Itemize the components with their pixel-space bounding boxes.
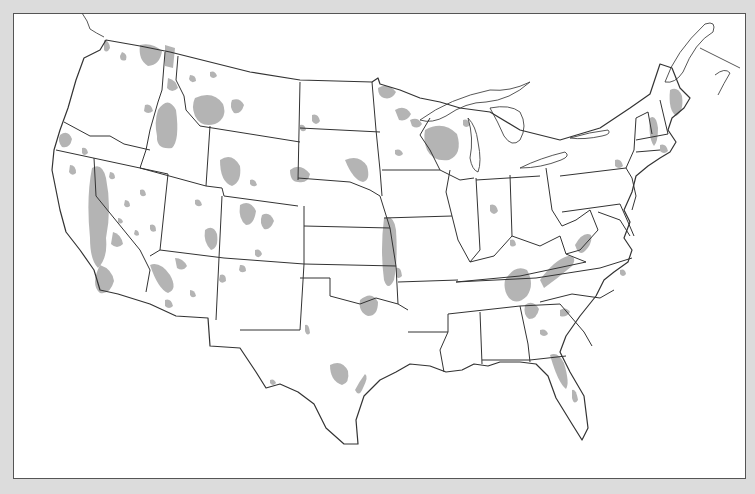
state-boundaries (56, 52, 668, 372)
shaded-regions (59, 40, 683, 403)
canada-outline (82, 13, 740, 172)
us-map (0, 0, 755, 494)
us-border (52, 40, 690, 444)
